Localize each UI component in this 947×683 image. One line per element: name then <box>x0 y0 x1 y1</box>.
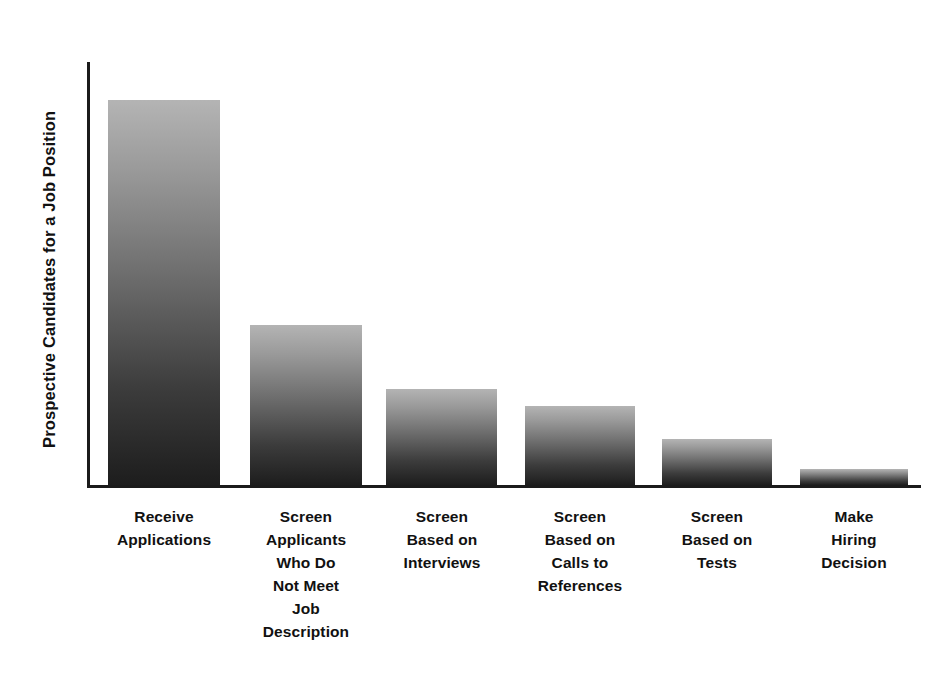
bar-chart: Prospective Candidates for a Job Positio… <box>0 0 947 683</box>
x-axis-label-screen-based-on-calls-to-references: Screen Based on Calls to References <box>516 505 644 597</box>
cat-label-line: Screen <box>653 505 781 528</box>
x-axis-label-screen-based-on-interviews: Screen Based on Interviews <box>378 505 506 574</box>
plot-area <box>0 0 947 683</box>
bar-make-hiring-decision[interactable] <box>800 469 908 485</box>
bar-screen-applicants-not-meet-job-description[interactable] <box>250 325 362 485</box>
cat-label-line: Calls to <box>516 551 644 574</box>
x-axis-label-make-hiring-decision: Make Hiring Decision <box>790 505 918 574</box>
cat-label-line: Based on <box>653 528 781 551</box>
cat-label-line: Job <box>242 597 370 620</box>
cat-label-line: Screen <box>242 505 370 528</box>
cat-label-line: Applicants <box>242 528 370 551</box>
cat-label-line: Receive <box>100 505 228 528</box>
bar-receive-applications[interactable] <box>108 100 220 485</box>
cat-label-line: Interviews <box>378 551 506 574</box>
cat-label-line: Who Do <box>242 551 370 574</box>
cat-label-line: Applications <box>100 528 228 551</box>
cat-label-line: Not Meet <box>242 574 370 597</box>
bar-screen-based-on-interviews[interactable] <box>386 389 497 485</box>
bar-screen-based-on-tests[interactable] <box>662 439 772 485</box>
cat-label-line: Hiring <box>790 528 918 551</box>
cat-label-line: Screen <box>378 505 506 528</box>
cat-label-line: Make <box>790 505 918 528</box>
cat-label-line: References <box>516 574 644 597</box>
cat-label-line: Based on <box>378 528 506 551</box>
bar-screen-based-on-calls-to-references[interactable] <box>525 406 635 485</box>
cat-label-line: Based on <box>516 528 644 551</box>
cat-label-line: Decision <box>790 551 918 574</box>
x-axis-label-screen-based-on-tests: Screen Based on Tests <box>653 505 781 574</box>
cat-label-line: Tests <box>653 551 781 574</box>
x-axis-label-screen-applicants-not-meet-job-description: Screen Applicants Who Do Not Meet Job De… <box>242 505 370 643</box>
cat-label-line: Description <box>242 620 370 643</box>
cat-label-line: Screen <box>516 505 644 528</box>
x-axis-label-receive-applications: Receive Applications <box>100 505 228 551</box>
